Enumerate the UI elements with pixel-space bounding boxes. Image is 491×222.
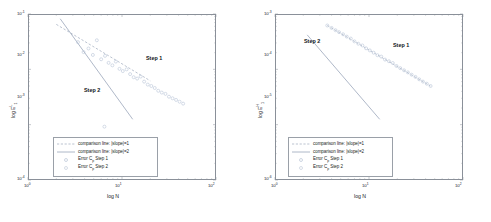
legend-item: Error Cp Step 1: [56, 156, 154, 164]
y-tick-label: 10-4: [264, 52, 271, 58]
legend-item: comparison line: |slope|=1: [291, 140, 389, 148]
y-axis-label-right: log EH1: [257, 102, 265, 118]
legend-item: Error Cp Step 1: [291, 156, 389, 164]
y-tick-label: 10-1: [17, 11, 24, 17]
dashed-line-key: [56, 140, 76, 148]
circle-marker-key: [291, 164, 311, 172]
x-tick-label: 101: [362, 183, 368, 189]
chart-panel-right: log EH1 log N 10-3 10-4 10-5 10-6 100 10…: [245, 0, 490, 222]
legend-item: comparison line: |slope|=1: [56, 140, 154, 148]
figure-container: log EL1 log N 10-1 10-2 10-3 10-4 100 10…: [0, 0, 491, 222]
x-axis-label-right: log N: [354, 194, 366, 199]
circle-marker-key: [56, 156, 76, 164]
legend-label: Error Cp Step 1: [78, 157, 108, 163]
x-tick-label: 102: [208, 183, 214, 189]
legend-label: comparison line: |slope|=1: [78, 142, 129, 147]
legend-label: comparison line: |slope|=1: [313, 142, 364, 147]
step-2-annotation: Step 2: [84, 88, 100, 93]
solid-line-key: [56, 148, 76, 156]
step-1-annotation: Step 1: [393, 43, 409, 48]
y-axis-label-left: log EL1: [10, 103, 18, 118]
legend-label: Error Cp Step 2: [78, 165, 108, 171]
legend-label: comparison line: |slope|=2: [313, 150, 364, 155]
y-tick-label: 10-6: [264, 176, 271, 182]
legend-left: comparison line: |slope|=1 comparison li…: [53, 137, 158, 177]
dashed-line-key: [291, 140, 311, 148]
chart-panel-left: log EL1 log N 10-1 10-2 10-3 10-4 100 10…: [0, 0, 245, 222]
step-1-annotation: Step 1: [146, 56, 162, 61]
legend-label: Error Cp Step 1: [313, 157, 343, 163]
legend-label: Error Cp Step 2: [313, 165, 343, 171]
y-tick-label: 10-2: [17, 52, 24, 58]
x-tick-label: 100: [271, 183, 277, 189]
y-tick-label: 10-3: [17, 94, 24, 100]
legend-item: Error Cp Step 2: [56, 164, 154, 172]
x-axis-label-left: log N: [107, 194, 119, 199]
circle-marker-key: [56, 164, 76, 172]
y-tick-label: 10-5: [264, 94, 271, 100]
step-2-annotation: Step 2: [304, 39, 320, 44]
legend-item: Error Cp Step 2: [291, 164, 389, 172]
solid-line-key: [291, 148, 311, 156]
x-tick-label: 100: [24, 183, 30, 189]
y-tick-label: 10-4: [17, 176, 24, 182]
y-tick-label: 10-3: [264, 11, 271, 17]
x-tick-label: 101: [115, 183, 121, 189]
legend-right: comparison line: |slope|=1 comparison li…: [288, 137, 393, 177]
legend-item: comparison line: |slope|=2: [291, 148, 389, 156]
circle-marker-key: [291, 156, 311, 164]
legend-item: comparison line: |slope|=2: [56, 148, 154, 156]
legend-label: comparison line: |slope|=2: [78, 150, 129, 155]
x-tick-label: 102: [455, 183, 461, 189]
